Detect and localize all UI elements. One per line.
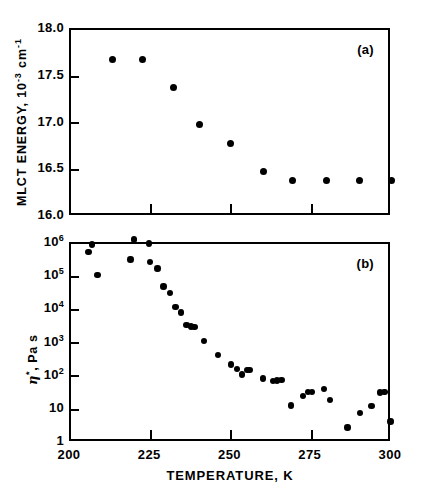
data-point (146, 240, 153, 247)
panel-b-plot-frame: (b) (69, 242, 390, 441)
figure: MLCT ENERGY, 10-3 cm-1 (a) η*, Pa s (b) … (0, 0, 421, 492)
x-tick-label: 225 (138, 448, 161, 461)
x-axis-title: TEMPERATURE, K (166, 468, 293, 483)
data-point (388, 177, 395, 184)
panel-a-y-tick-label: 16.0 (12, 208, 64, 221)
data-point (387, 418, 394, 425)
data-point (85, 249, 92, 256)
data-point (167, 290, 174, 297)
panel-b-y-tick-label: 105 (12, 268, 64, 281)
panel-b-y-tick-label: 1 (12, 434, 64, 447)
data-point (327, 397, 334, 404)
data-point (127, 256, 134, 263)
data-point (228, 361, 235, 368)
x-tick-label: 200 (57, 448, 80, 461)
data-point (357, 410, 364, 417)
panel-b-x-tick (311, 430, 313, 439)
panel-a-y-tick-label: 17.5 (12, 68, 64, 81)
panel-a-y-tick-label: 18.0 (12, 21, 64, 34)
panel-b-y-tick (71, 409, 79, 411)
data-point (260, 168, 267, 175)
data-point (196, 121, 203, 128)
data-point (215, 352, 222, 359)
data-point (309, 389, 316, 396)
panel-a-y-tick-label: 16.5 (12, 161, 64, 174)
panel-a-y-tick (71, 122, 79, 124)
panel-b-y-tick-label: 10 (12, 401, 64, 414)
data-point (191, 324, 198, 331)
panel-b-y-tick-label: 103 (12, 335, 64, 348)
data-point (89, 241, 96, 248)
panel-b-y-tick (71, 375, 79, 377)
data-point (201, 338, 208, 345)
panel-a-y-axis-exponent-2: -1 (13, 38, 23, 48)
data-point (131, 236, 138, 243)
data-point (356, 177, 363, 184)
panel-b-x-tick (230, 430, 232, 439)
panel-b-y-tick (71, 342, 79, 344)
panel-a-y-tick (71, 76, 79, 78)
panel-b-y-tick (71, 309, 79, 311)
x-tick-label: 300 (378, 448, 401, 461)
data-point (381, 389, 388, 396)
data-point (344, 424, 351, 431)
panel-a-x-tick (230, 204, 232, 213)
x-tick-label: 250 (218, 448, 241, 461)
panel-b-x-tick (150, 430, 152, 439)
data-point (278, 377, 285, 384)
panel-a-plot-frame: (a) (69, 28, 390, 215)
data-point (109, 56, 116, 63)
panel-b-y-tick-label: 104 (12, 301, 64, 314)
data-point (368, 403, 375, 410)
data-point (160, 283, 167, 290)
data-point (170, 84, 177, 91)
panel-a-plot-area (71, 30, 388, 213)
data-point (323, 177, 330, 184)
data-point (239, 371, 246, 378)
data-point (288, 402, 295, 409)
panel-a-x-tick (311, 204, 313, 213)
panel-a-y-tick (71, 169, 79, 171)
data-point (139, 56, 146, 63)
panel-a-y-tick-label: 17.0 (12, 115, 64, 128)
panel-b-y-tick-label: 106 (12, 235, 64, 248)
data-point (154, 265, 161, 272)
data-point (321, 386, 328, 393)
data-point (289, 177, 296, 184)
data-point (246, 367, 253, 374)
panel-b-y-tick (71, 276, 79, 278)
panel-a-x-tick (150, 204, 152, 213)
panel-a-label: (a) (357, 42, 374, 57)
data-point (227, 140, 234, 147)
data-point (178, 309, 185, 316)
data-point (94, 272, 101, 279)
x-tick-label: 275 (298, 448, 321, 461)
panel-b-y-tick-label: 102 (12, 368, 64, 381)
data-point (147, 259, 154, 266)
data-point (260, 375, 267, 382)
panel-b-plot-area (71, 244, 388, 439)
panel-a-y-axis-title-text: MLCT ENERGY, 10 (15, 82, 29, 206)
panel-b-label: (b) (357, 256, 375, 271)
